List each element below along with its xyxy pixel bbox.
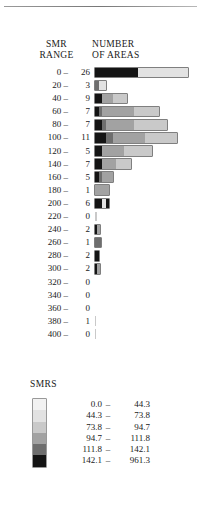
top-rule-divider (4, 6, 197, 7)
row-range-label: 320 – (24, 276, 68, 289)
row-bar (95, 146, 152, 156)
row-count-value: 1 (70, 184, 90, 197)
bar-segment (95, 68, 138, 78)
legend-high-value: 961.3 (114, 455, 150, 466)
row-count-value: 7 (70, 105, 90, 118)
legend-swatch (33, 410, 46, 421)
column-header-smr-range: SMR RANGE (29, 39, 84, 61)
row-range-label: 220 – (24, 210, 68, 223)
row-count-value: 0 (70, 210, 90, 223)
smr-header-line1: SMR (29, 39, 84, 50)
row-range-label: 160 – (24, 171, 68, 184)
row-count-value: 0 (70, 289, 90, 302)
legend-dash: – (102, 422, 114, 433)
row-bar (95, 172, 113, 182)
row-bar (95, 316, 96, 326)
bar-segment (145, 133, 177, 143)
bar-segment (95, 94, 102, 104)
row-range-label: 400 – (24, 328, 68, 341)
row-bar (95, 264, 100, 274)
histogram-row: 240 –2 (0, 223, 199, 236)
legend-dash: – (102, 455, 114, 466)
histogram-row: 200 –6 (0, 197, 199, 210)
smr-header-line2: RANGE (29, 50, 84, 61)
row-bar (95, 94, 127, 104)
histogram-row: 100 –11 (0, 131, 199, 144)
row-bar (95, 107, 159, 117)
row-count-value: 7 (70, 118, 90, 131)
row-count-value: 6 (70, 197, 90, 210)
bar-segment (95, 120, 102, 130)
histogram-row: 40 –9 (0, 92, 199, 105)
bar-segment (124, 146, 153, 156)
histogram-row: 260 –1 (0, 236, 199, 249)
histogram-row: 60 –7 (0, 105, 199, 118)
legend-entry: 0.0–44.3 (55, 399, 150, 410)
row-bar (95, 212, 97, 222)
bar-segment (102, 107, 134, 117)
histogram-row: 0 –26 (0, 66, 199, 79)
bar-segment (106, 120, 135, 130)
row-bar (95, 81, 106, 91)
legend-dash: – (102, 410, 114, 421)
bar-segment (95, 212, 97, 222)
bar-segment (97, 225, 101, 235)
number-header-line2: OF AREAS (92, 50, 167, 61)
histogram-row: 120 –5 (0, 145, 199, 158)
bar-segment (95, 238, 101, 248)
row-count-value: 0 (70, 328, 90, 341)
row-count-value: 5 (70, 171, 90, 184)
bar-segment (102, 146, 123, 156)
row-range-label: 140 – (24, 158, 68, 171)
legend-title: SMRS (30, 379, 57, 389)
histogram-row: 160 –5 (0, 171, 199, 184)
bar-segment (95, 199, 102, 209)
row-range-label: 200 – (24, 197, 68, 210)
row-bar (95, 251, 99, 261)
row-bar (95, 238, 101, 248)
row-range-label: 80 – (24, 118, 68, 131)
legend-dash: – (102, 433, 114, 444)
histogram-rows: 0 –2620 –340 –960 –780 –7100 –11120 –514… (0, 66, 199, 341)
row-bar (95, 133, 177, 143)
row-range-label: 60 – (24, 105, 68, 118)
legend-low-value: 94.7 (68, 433, 102, 444)
histogram-row: 220 –0 (0, 210, 199, 223)
row-bar (95, 68, 188, 78)
number-header-line1: NUMBER (92, 39, 167, 50)
bar-segment (102, 172, 113, 182)
row-range-label: 260 – (24, 236, 68, 249)
legend-low-value: 0.0 (68, 399, 102, 410)
row-count-value: 0 (70, 276, 90, 289)
row-bar (95, 185, 109, 195)
row-range-label: 360 – (24, 302, 68, 315)
histogram-row: 300 –2 (0, 262, 199, 275)
legend-swatch (33, 422, 46, 433)
legend-swatch-column (33, 399, 46, 467)
bar-segment (95, 159, 102, 169)
legend-low-value: 111.8 (68, 444, 102, 455)
row-count-value: 5 (70, 145, 90, 158)
histogram-row: 320 –0 (0, 276, 199, 289)
row-count-value: 2 (70, 249, 90, 262)
legend-swatch (33, 399, 46, 410)
legend-high-value: 142.1 (114, 444, 150, 455)
bar-segment (99, 81, 106, 91)
histogram-row: 280 –2 (0, 249, 199, 262)
row-count-value: 9 (70, 92, 90, 105)
bar-segment (134, 107, 159, 117)
histogram-row: 20 –3 (0, 79, 199, 92)
row-range-label: 180 – (24, 184, 68, 197)
legend-entry: 94.7–111.8 (55, 433, 150, 444)
row-count-value: 0 (70, 302, 90, 315)
histogram-row: 340 –0 (0, 289, 199, 302)
row-count-value: 11 (70, 131, 90, 144)
bar-segment (113, 133, 145, 143)
row-bar (95, 199, 109, 209)
bar-segment (116, 159, 130, 169)
bar-segment (134, 120, 166, 130)
row-range-label: 280 – (24, 249, 68, 262)
row-range-label: 300 – (24, 262, 68, 275)
bar-segment (95, 185, 109, 195)
legend-low-value: 44.3 (68, 410, 102, 421)
